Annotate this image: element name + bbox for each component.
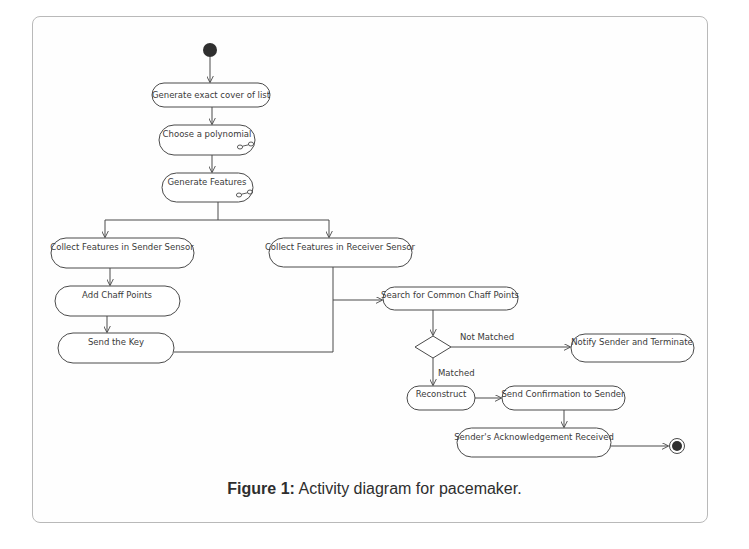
label-generate-exact-cover: Generate exact cover of list	[152, 90, 271, 100]
initial-node	[203, 43, 217, 57]
label-ack-received: Sender's Acknowledgement Received	[454, 432, 614, 442]
caption-label: Figure 1:	[227, 480, 295, 497]
label-choose-polynomial: Choose a polynomial	[163, 129, 252, 139]
edge-n3-n4	[105, 202, 218, 237]
edge-label-matched: Matched	[438, 368, 475, 378]
edge-n7-n8	[174, 267, 333, 352]
final-node-inner	[672, 441, 682, 451]
label-send-confirmation: Send Confirmation to Sender	[501, 389, 625, 399]
caption-text: Activity diagram for pacemaker.	[295, 480, 522, 497]
edge-label-not-matched: Not Matched	[460, 332, 514, 342]
activity-diagram: Generate exact cover of list Choose a po…	[0, 0, 749, 549]
edge-n3-n5	[218, 220, 329, 237]
label-send-key: Send the Key	[88, 337, 144, 347]
figure-caption: Figure 1: Activity diagram for pacemaker…	[0, 480, 749, 498]
decision-node	[415, 336, 451, 358]
label-collect-sender: Collect Features in Sender Sensor	[50, 242, 194, 252]
label-generate-features: Generate Features	[168, 177, 248, 187]
label-notify-sender: Notify Sender and Terminate	[571, 337, 692, 347]
label-reconstruct: Reconstruct	[416, 389, 467, 399]
label-search-chaff: Search for Common Chaff Points	[381, 290, 519, 300]
label-add-chaff: Add Chaff Points	[82, 290, 152, 300]
label-collect-receiver: Collect Features in Receiver Sensor	[265, 242, 416, 252]
